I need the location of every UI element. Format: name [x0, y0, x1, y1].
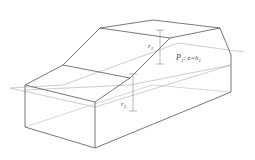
label-r1: r1: [148, 42, 153, 51]
solid-edges: [25, 20, 231, 148]
hidden-edges: [25, 85, 231, 127]
marker-r1: [156, 30, 164, 64]
plane-p1: [10, 43, 244, 107]
label-plane-p1: P1: z=h1: [175, 53, 201, 63]
label-r2: r2: [121, 100, 127, 109]
diagram-canvas: r1 r2 P1: z=h1: [0, 0, 255, 160]
